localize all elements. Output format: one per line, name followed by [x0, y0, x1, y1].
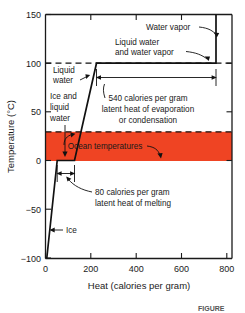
annotation-melting-line2: latent heat of melting [95, 199, 171, 208]
annotation-evaporation-line1: 540 calories per gram [108, 94, 187, 103]
x-tick-label-0: 0 [43, 264, 48, 274]
annotation-ice: Ice [66, 226, 77, 235]
y-tick-label-minus-100: −100 [21, 254, 41, 264]
water-vapor-leader-line [199, 27, 217, 35]
y-tick-label-minus-50: −50 [26, 205, 41, 215]
figure-container: 150 100 50 0 −50 −100 0 200 400 600 800 … [0, 0, 245, 313]
y-tick-label-50: 50 [31, 107, 41, 117]
x-axis-title: Heat (calories per gram) [88, 280, 190, 291]
x-tick-label-400: 400 [129, 264, 144, 274]
annotation-liquid-water-line1: Liquid [53, 66, 75, 75]
melting-label-arrowhead [66, 177, 71, 182]
phase-change-chart: 150 100 50 0 −50 −100 0 200 400 600 800 … [0, 0, 245, 313]
water-vapor-arrowhead [214, 33, 219, 38]
annotation-liquid-and-vapor-line2: and water vapor [115, 48, 174, 57]
annotation-ocean-temperatures: Ocean temperatures [68, 142, 143, 151]
evaporation-label-leader-line [103, 84, 105, 98]
annotation-liquid-water-line2: water [52, 76, 73, 85]
annotation-water-vapor: Water vapor [146, 23, 191, 32]
annotation-ice-and-liquid-line2: liquid [50, 103, 70, 112]
y-tick-label-0: 0 [36, 156, 41, 166]
x-tick-label-200: 200 [83, 264, 98, 274]
liquid-water-arrowhead [85, 74, 90, 79]
annotation-evaporation-line2: latent heat of evaporation [102, 105, 195, 114]
x-tick-label-600: 600 [174, 264, 189, 274]
y-tick-label-100: 100 [26, 59, 41, 69]
annotation-evaporation-line3: or condensation [119, 116, 178, 125]
y-tick-label-150: 150 [26, 10, 41, 20]
liquid-and-vapor-arrowhead [205, 56, 210, 61]
y-axis-title: Temperature (°C) [5, 100, 16, 173]
annotation-melting-line1: 80 calories per gram [95, 188, 170, 197]
figure-caption: FIGURE [198, 305, 225, 312]
x-tick-label-800: 800 [219, 264, 234, 274]
melting-label-leader-line [68, 179, 92, 192]
annotation-ice-and-liquid-line3: water [49, 114, 70, 123]
annotation-liquid-and-vapor-line1: Liquid water [115, 38, 159, 47]
annotation-ice-and-liquid-line1: Ice and [50, 92, 77, 101]
liquid-and-vapor-leader-line [186, 52, 207, 60]
